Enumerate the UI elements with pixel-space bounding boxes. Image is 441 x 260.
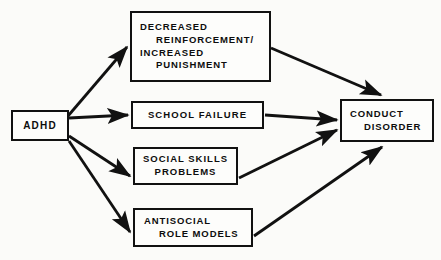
- node-reinforcement-line-1: DECREASED: [140, 21, 208, 34]
- node-social-skills-problems[interactable]: SOCIAL SKILLS PROBLEMS: [133, 147, 238, 185]
- node-conduct-line-2: DISORDER: [350, 121, 421, 134]
- node-social-line-2: PROBLEMS: [155, 166, 217, 179]
- node-decreased-reinforcement[interactable]: DECREASED REINFORCEMENT/ INCREASED PUNIS…: [130, 11, 271, 82]
- node-conduct-disorder[interactable]: CONDUCT DISORDER: [340, 99, 434, 142]
- node-antisocial-role-models[interactable]: ANTISOCIAL ROLE MODELS: [133, 208, 253, 247]
- node-social-line-1: SOCIAL SKILLS: [143, 153, 228, 166]
- diagram-canvas: ADHD DECREASED REINFORCEMENT/ INCREASED …: [0, 0, 441, 260]
- node-school-line-1: SCHOOL FAILURE: [148, 109, 247, 122]
- node-conduct-line-1: CONDUCT: [350, 108, 404, 121]
- edge-social-to-conduct: [239, 130, 337, 178]
- node-adhd-line-1: ADHD: [23, 119, 57, 132]
- node-antisocial-line-2: ROLE MODELS: [144, 228, 239, 241]
- node-reinforcement-line-2: REINFORCEMENT/: [140, 34, 254, 47]
- node-antisocial-line-1: ANTISOCIAL: [144, 215, 211, 228]
- edge-adhd-to-reinforcement: [68, 47, 127, 116]
- node-reinforcement-line-3: INCREASED: [140, 47, 204, 60]
- edge-adhd-to-school: [69, 115, 128, 118]
- edge-school-to-conduct: [265, 115, 337, 120]
- node-adhd[interactable]: ADHD: [11, 110, 69, 141]
- node-reinforcement-line-4: PUNISHMENT: [140, 59, 228, 72]
- node-school-failure[interactable]: SCHOOL FAILURE: [131, 101, 264, 129]
- edge-reinforcement-to-conduct: [271, 48, 381, 95]
